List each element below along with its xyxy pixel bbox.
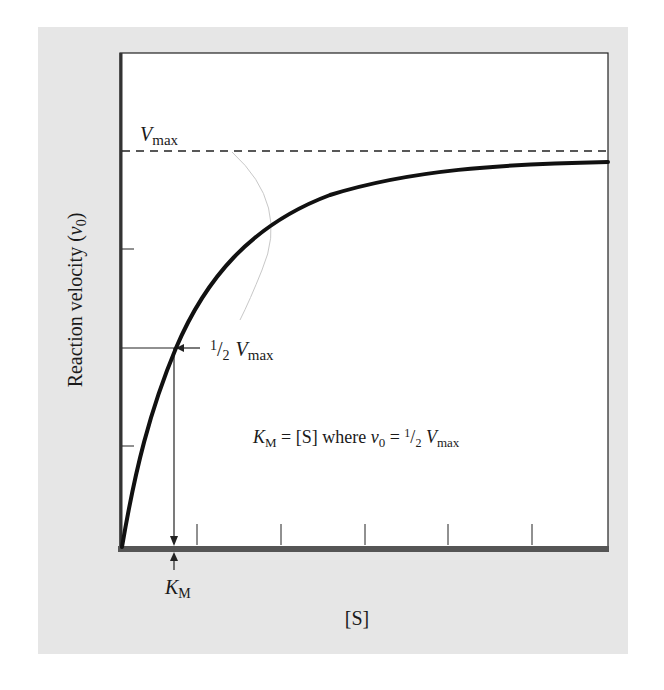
y-axis-label: Reaction velocity (v0)	[64, 213, 89, 388]
km-definition-equation: KM = [S] where v0 = 1/2 Vmax	[252, 426, 460, 450]
km-label: KM	[164, 576, 191, 601]
km-up-arrowhead	[170, 552, 178, 561]
plot-area	[120, 53, 608, 549]
michaelis-menten-chart: Vmax 1/2Vmax KM = [S] where v0 = 1/2 Vma…	[0, 0, 664, 690]
x-axis-label: [S]	[345, 607, 369, 629]
